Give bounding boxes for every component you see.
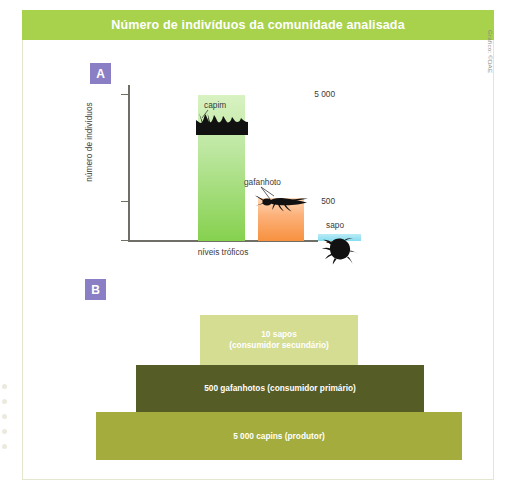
credit-text: Gráfico: ©DAE <box>482 30 494 100</box>
bar-label-sapo: sapo <box>326 220 344 230</box>
plot-area: capim gafanhoto sapo <box>128 95 318 241</box>
figure-root: Número de indivíduos da comunidade anali… <box>0 0 517 493</box>
x-axis-label: níveis tróficos <box>128 247 318 257</box>
pyramid-tier-bottom-line1: 5 000 capins (produtor) <box>233 431 325 442</box>
y-tick-mark <box>121 201 128 202</box>
y-axis-label: número de indivíduos <box>84 82 94 202</box>
page-edge-mark <box>2 399 7 404</box>
page-title: Número de indivíduos da comunidade anali… <box>111 18 404 32</box>
ecological-pyramid-panel-b: 10 sapos (consumidor secundário) 500 gaf… <box>36 315 476 460</box>
page-edge-mark <box>2 384 7 389</box>
bar-label-capim: capim <box>204 100 226 110</box>
page-edge-mark <box>2 444 7 449</box>
figure-title-band: Número de indivíduos da comunidade anali… <box>22 10 494 40</box>
pyramid-tier-top: 10 sapos (consumidor secundário) <box>200 315 358 365</box>
page-edge-mark <box>2 414 7 419</box>
grass-silhouette <box>196 113 248 139</box>
bar-chart-panel-a: número de indivíduos 5 000 500 10 <box>75 55 335 260</box>
grasshopper-silhouette <box>254 192 310 216</box>
y-tick-mark <box>121 240 128 241</box>
y-tick-mark <box>121 94 128 95</box>
pyramid-tier-top-line2: (consumidor secundário) <box>229 340 329 351</box>
panel-badge-b: B <box>85 279 106 300</box>
pyramid-tier-top-line1: 10 sapos <box>229 329 329 340</box>
frog-silhouette <box>320 235 358 269</box>
pyramid-tier-middle-line1: 500 gafanhotos (consumidor primário) <box>204 383 356 394</box>
pyramid-tier-middle: 500 gafanhotos (consumidor primário) <box>136 365 424 412</box>
bar-label-gafanhoto: gafanhoto <box>244 177 281 187</box>
page-edge-mark <box>2 429 7 434</box>
pyramid-tier-bottom: 5 000 capins (produtor) <box>96 412 462 460</box>
